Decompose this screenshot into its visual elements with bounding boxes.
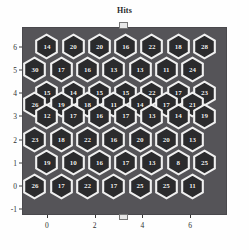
y-tick-mark xyxy=(19,116,22,117)
hex-value-label: 25 xyxy=(153,173,180,200)
y-tick-label: 3 xyxy=(13,112,17,121)
x-tick-mark xyxy=(47,215,48,218)
y-tick-label: 2 xyxy=(13,135,17,144)
y-tick-label: -1 xyxy=(11,205,17,214)
hex-cell: 26 xyxy=(22,173,48,200)
hex-value-label: 11 xyxy=(179,173,206,200)
hex-cell: 22 xyxy=(74,173,101,200)
chart-root: Hits 14202016221828301716131311241514151… xyxy=(0,0,249,250)
hex-value-label: 22 xyxy=(74,173,101,200)
y-tick-mark xyxy=(19,93,22,94)
x-tick-mark xyxy=(142,215,143,218)
hex-cell: 11 xyxy=(179,173,206,200)
y-tick-label: 0 xyxy=(13,182,17,191)
top-axis-nub xyxy=(119,22,128,29)
x-tick-label: 6 xyxy=(188,221,192,230)
hex-value-label: 17 xyxy=(100,173,127,200)
bottom-axis-nub xyxy=(119,214,128,220)
hex-cell: 25 xyxy=(153,173,180,200)
x-tick-mark xyxy=(95,215,96,218)
plot-area: 1420201622182830171613131124151415152217… xyxy=(22,27,227,215)
hex-cell: 17 xyxy=(48,173,75,200)
y-tick-mark xyxy=(19,69,22,70)
y-tick-mark xyxy=(19,162,22,163)
chart-title: Hits xyxy=(0,6,249,15)
y-tick-mark xyxy=(19,209,22,210)
y-tick-label: 6 xyxy=(13,42,17,51)
y-tick-label: 5 xyxy=(13,65,17,74)
hex-value-label: 17 xyxy=(48,173,75,200)
y-tick-mark xyxy=(19,139,22,140)
hex-grid-layer: 1420201622182830171613131124151415152217… xyxy=(23,28,226,214)
hex-value-label: 26 xyxy=(22,173,48,200)
x-tick-label: 0 xyxy=(45,221,49,230)
y-tick-label: 4 xyxy=(13,89,17,98)
hex-cell: 25 xyxy=(127,173,154,200)
x-tick-label: 2 xyxy=(93,221,97,230)
y-tick-label: 1 xyxy=(13,158,17,167)
hex-cell: 17 xyxy=(100,173,127,200)
y-tick-mark xyxy=(19,186,22,187)
hex-value-label: 25 xyxy=(127,173,154,200)
y-tick-mark xyxy=(19,46,22,47)
y-axis: 6543210-1 xyxy=(0,27,22,215)
x-tick-label: 4 xyxy=(141,221,145,230)
x-tick-mark xyxy=(190,215,191,218)
